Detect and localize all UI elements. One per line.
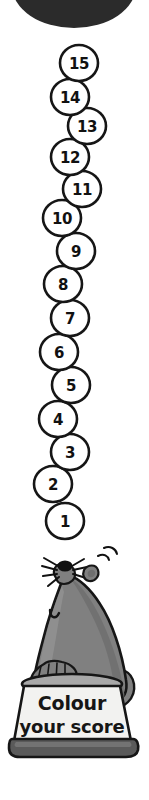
score-circle-label: 6 — [54, 344, 64, 362]
pedestal-line-2: your score — [20, 716, 125, 737]
score-chart-illustration: Colour your score 123456789101112131415 — [0, 0, 149, 800]
score-circle-label: 2 — [48, 476, 58, 494]
score-circle-3[interactable]: 3 — [51, 434, 89, 470]
score-circle-11[interactable]: 11 — [63, 171, 101, 207]
score-circle-label: 12 — [60, 149, 80, 167]
score-circle-7[interactable]: 7 — [51, 300, 89, 336]
pedestal-base-highlight — [15, 742, 132, 747]
score-circle-1[interactable]: 1 — [46, 503, 84, 539]
score-circle-14[interactable]: 14 — [51, 79, 89, 115]
score-circle-label: 4 — [53, 411, 63, 429]
score-circle-15[interactable]: 15 — [60, 45, 98, 81]
pedestal-group: Colour your score — [9, 674, 138, 757]
seal-motion-marks — [98, 547, 117, 560]
score-circle-9[interactable]: 9 — [57, 233, 95, 269]
top-dark-ellipse-group — [12, 0, 136, 28]
score-circle-label: 8 — [58, 276, 68, 294]
score-circle-label: 1 — [60, 513, 70, 531]
score-circle-label: 15 — [69, 55, 89, 73]
seal-nose — [58, 561, 73, 572]
illustration-canvas: Colour your score 123456789101112131415 — [0, 0, 149, 800]
score-circle-8[interactable]: 8 — [44, 266, 82, 302]
score-circle-label: 7 — [65, 310, 75, 328]
score-circle-label: 9 — [71, 243, 81, 261]
score-circle-label: 3 — [65, 444, 75, 462]
score-circle-label: 11 — [72, 181, 92, 199]
score-circle-label: 5 — [66, 377, 76, 395]
score-circle-4[interactable]: 4 — [39, 401, 77, 437]
pedestal-line-1: Colour — [38, 692, 107, 714]
score-circle-label: 14 — [60, 89, 80, 107]
pedestal-base — [9, 739, 138, 757]
score-circle-label: 10 — [52, 210, 72, 228]
score-circle-6[interactable]: 6 — [40, 334, 78, 370]
score-circle-label: 13 — [77, 118, 97, 136]
decorative-dark-ellipse — [12, 0, 136, 28]
score-circle-2[interactable]: 2 — [34, 466, 72, 502]
score-ladder: 123456789101112131415 — [34, 45, 106, 539]
score-circle-5[interactable]: 5 — [52, 367, 90, 403]
